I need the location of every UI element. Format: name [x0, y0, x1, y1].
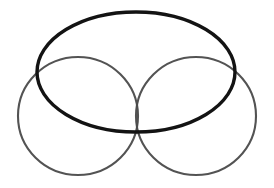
figure-background	[0, 0, 274, 188]
figure-container	[0, 0, 274, 188]
circles-figure-svg	[0, 0, 274, 188]
